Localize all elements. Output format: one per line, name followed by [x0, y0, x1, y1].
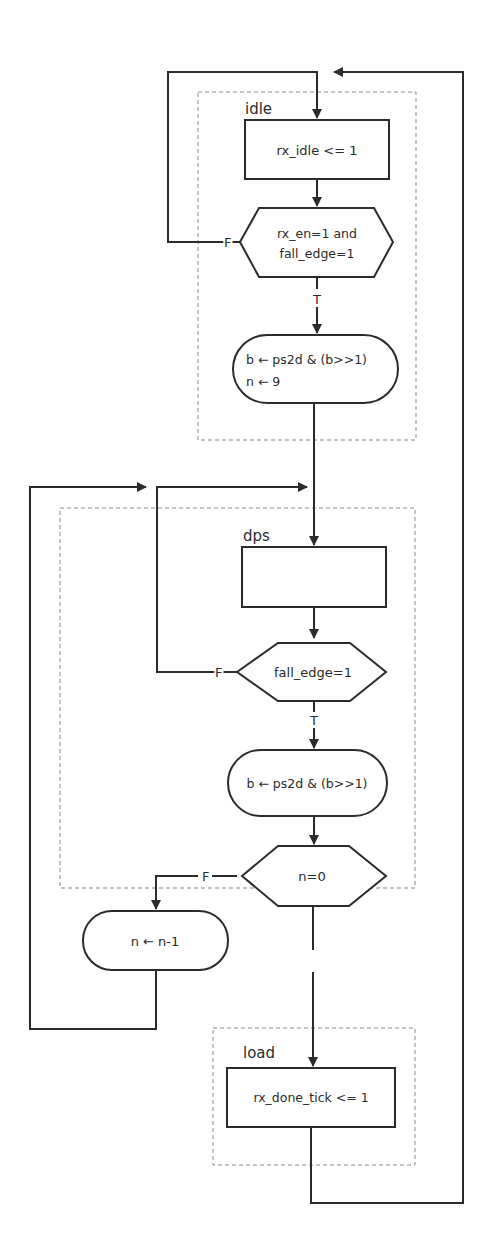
n-false-label: F	[202, 869, 209, 884]
idle-false-label: F	[224, 235, 231, 250]
idle-action-text: rx_idle <= 1	[277, 143, 358, 158]
dps-true-label: T	[309, 713, 318, 728]
idle-cond-action-line2: n ← 9	[246, 374, 280, 389]
n-decision-text: n=0	[298, 869, 325, 884]
dps-decision-text: fall_edge=1	[274, 665, 352, 680]
n-dec-action-text: n ← n-1	[131, 934, 180, 949]
idle-decision-line1: rx_en=1 and	[277, 226, 357, 241]
dps-cond-action-text: b ← ps2d & (b>>1)	[247, 776, 368, 791]
dps-false-label: F	[215, 665, 222, 680]
asm-chart: idle rx_idle <= 1 rx_en=1 and fall_edge=…	[0, 0, 491, 1256]
load-action-text: rx_done_tick <= 1	[253, 1090, 368, 1105]
idle-cond-action-line1: b ← ps2d & (b>>1)	[246, 352, 367, 367]
state-label-dps: dps	[243, 527, 270, 545]
idle-decision-line2: fall_edge=1	[280, 246, 355, 261]
state-label-load: load	[243, 1044, 275, 1062]
idle-true-label: T	[312, 292, 321, 307]
idle-decision	[240, 208, 393, 277]
dps-action-box	[242, 547, 386, 607]
idle-cond-action-box	[233, 335, 398, 403]
state-label-idle: idle	[245, 100, 272, 118]
